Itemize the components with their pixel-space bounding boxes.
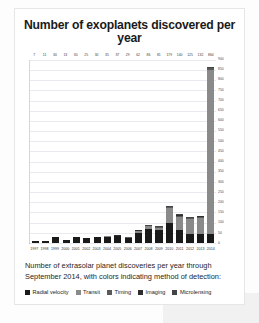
bar-slot[interactable] — [71, 60, 81, 243]
stacked-bar[interactable] — [166, 206, 173, 242]
bar-data-label: 11 — [39, 50, 49, 60]
bar-segment — [32, 241, 39, 242]
bar-data-label: 132 — [195, 50, 205, 60]
stacked-bar[interactable] — [125, 237, 132, 243]
bar-slot[interactable] — [40, 60, 50, 243]
y-axis-tick-label: 600 — [218, 119, 224, 122]
y-axis-tick-label: 900 — [218, 58, 224, 61]
bar-segment — [135, 233, 142, 243]
legend-swatch-icon — [138, 290, 143, 295]
stacked-bar[interactable] — [207, 67, 214, 243]
chart-legend: Radial velocityTransitTimingImagingMicro… — [25, 289, 234, 295]
bar-segment — [166, 208, 173, 223]
bar-data-label: 29 — [123, 50, 133, 60]
bar-data-labels: 7113013302530353729628681179140125132864 — [29, 50, 216, 60]
bar-slot[interactable] — [195, 60, 205, 243]
bar-segment — [52, 237, 59, 242]
bar-segment — [176, 217, 183, 231]
bar-slot[interactable] — [123, 60, 133, 243]
y-axis-tick-label: 400 — [218, 160, 224, 163]
bar-slot[interactable] — [185, 60, 195, 243]
stacked-bar[interactable] — [83, 238, 90, 243]
legend-swatch-icon — [25, 290, 30, 295]
bar-data-label: 35 — [102, 50, 112, 60]
x-axis-tick-label: 2004 — [102, 244, 112, 255]
bar-segment — [186, 234, 193, 243]
bar-segment — [63, 240, 70, 243]
bar-slot[interactable] — [61, 60, 71, 243]
legend-swatch-icon — [76, 290, 81, 295]
page-title: Number of exoplanets discovered per year — [23, 19, 236, 46]
stacked-bar[interactable] — [32, 241, 39, 242]
bar-segment — [42, 241, 49, 243]
stacked-bar[interactable] — [197, 216, 204, 243]
bar-segment — [94, 237, 101, 242]
stacked-bar[interactable] — [63, 240, 70, 243]
stacked-bar[interactable] — [114, 235, 121, 243]
stacked-bar[interactable] — [104, 236, 111, 243]
stacked-bar[interactable] — [94, 237, 101, 243]
bar-segment — [207, 70, 214, 234]
bar-data-label: 86 — [143, 50, 153, 60]
legend-label: Imaging — [146, 289, 166, 295]
bar-segment — [186, 219, 193, 234]
legend-item[interactable]: Imaging — [138, 289, 165, 295]
legend-item[interactable]: Transit — [76, 289, 100, 295]
x-axis-tick-label: 2012 — [185, 244, 195, 255]
x-axis-tick-label: 2011 — [174, 244, 184, 255]
bar-data-label: 13 — [60, 50, 70, 60]
y-axis-tick-label: 200 — [218, 201, 224, 204]
bar-segment — [125, 238, 132, 243]
bar-slot[interactable] — [164, 60, 174, 243]
bar-slot[interactable] — [92, 60, 102, 243]
bar-slot[interactable] — [206, 60, 216, 243]
legend-item[interactable]: Radial velocity — [25, 289, 69, 295]
bar-slot[interactable] — [154, 60, 164, 243]
bar-data-label: 125 — [185, 50, 195, 60]
bar-slot[interactable] — [51, 60, 61, 243]
stacked-bar[interactable] — [145, 225, 152, 242]
bar-data-label: 30 — [71, 50, 81, 60]
x-axis-tick-label: 1998 — [39, 244, 49, 255]
x-axis-tick-label: 1999 — [50, 244, 60, 255]
stacked-bar[interactable] — [176, 214, 183, 242]
y-axis-tick-label: 0 — [218, 242, 220, 245]
bar-slot[interactable] — [82, 60, 92, 243]
x-axis-tick-label: 2007 — [133, 244, 143, 255]
x-axis-tick-label: 2013 — [195, 244, 205, 255]
bar-segment — [83, 238, 90, 243]
stacked-bar[interactable] — [155, 226, 162, 242]
legend-item[interactable]: Microlensing — [172, 289, 211, 295]
bar-segment — [104, 237, 111, 243]
bar-segment — [114, 236, 121, 243]
bar-slot[interactable] — [144, 60, 154, 243]
bar-segment — [207, 234, 214, 243]
bar-data-label: 140 — [174, 50, 184, 60]
bar-segment — [145, 229, 152, 243]
x-axis-tick-label: 2008 — [143, 244, 153, 255]
stacked-bar[interactable] — [73, 237, 80, 243]
y-axis-tick-label: 500 — [218, 140, 224, 143]
stacked-bar[interactable] — [42, 241, 49, 243]
stacked-bar[interactable] — [135, 230, 142, 243]
legend-label: Transit — [83, 289, 100, 295]
x-axis-tick-label: 2005 — [112, 244, 122, 255]
legend-label: Timing — [114, 289, 131, 295]
y-axis-tick-label: 150 — [218, 211, 224, 214]
y-axis-tick-label: 300 — [218, 181, 224, 184]
bar-slot[interactable] — [30, 60, 40, 243]
bar-data-label: 864 — [206, 50, 216, 60]
chart-card: Number of exoplanets discovered per year… — [14, 8, 245, 305]
stacked-bar[interactable] — [52, 237, 59, 243]
bar-series-group — [30, 60, 216, 243]
bar-slot[interactable] — [113, 60, 123, 243]
bar-slot[interactable] — [133, 60, 143, 243]
bar-slot[interactable] — [102, 60, 112, 243]
bar-slot[interactable] — [175, 60, 185, 243]
x-axis-tick-label: 2009 — [154, 244, 164, 255]
bar-data-label: 25 — [81, 50, 91, 60]
stacked-bar[interactable] — [186, 217, 193, 242]
y-axis-tick-label: 250 — [218, 191, 224, 194]
y-axis-tick-label: 850 — [218, 68, 224, 71]
legend-item[interactable]: Timing — [107, 289, 131, 295]
